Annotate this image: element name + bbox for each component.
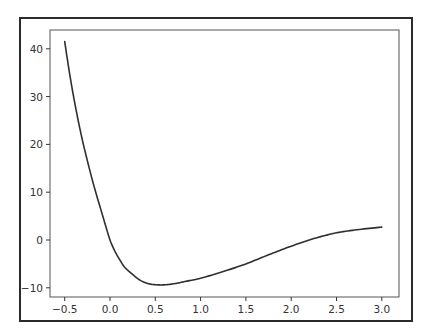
chart-canvas: −0.50.00.51.01.52.02.53.0 −10010203040 bbox=[0, 0, 427, 336]
data-line bbox=[65, 42, 382, 285]
y-tick-label: 30 bbox=[30, 91, 43, 103]
y-tick-label: 20 bbox=[30, 138, 43, 150]
y-tick-label: 0 bbox=[36, 234, 43, 246]
y-tick-label: −10 bbox=[21, 282, 43, 294]
x-tick-label: 0.5 bbox=[147, 303, 164, 315]
x-tick-label: 2.5 bbox=[328, 303, 345, 315]
x-tick-label: 1.0 bbox=[192, 303, 209, 315]
x-tick-label: −0.5 bbox=[52, 303, 78, 315]
x-tick-label: 1.5 bbox=[238, 303, 255, 315]
axes-spines bbox=[50, 30, 399, 297]
y-axis: −10010203040 bbox=[21, 43, 50, 294]
y-tick-label: 10 bbox=[30, 186, 43, 198]
x-tick-label: 3.0 bbox=[373, 303, 390, 315]
x-axis: −0.50.00.51.01.52.02.53.0 bbox=[52, 297, 390, 315]
x-tick-label: 2.0 bbox=[283, 303, 300, 315]
x-tick-label: 0.0 bbox=[102, 303, 119, 315]
y-tick-label: 40 bbox=[30, 43, 43, 55]
